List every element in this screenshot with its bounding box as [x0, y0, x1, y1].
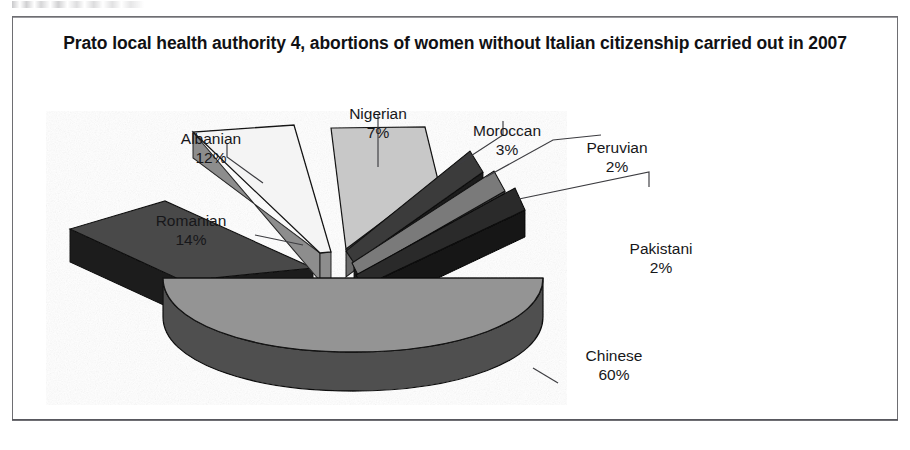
screenshot-page: Prato local health authority 4, abortion…	[0, 0, 910, 450]
scan-artifact-strip	[12, 1, 144, 8]
pie-label-romanian-name: Romanian	[156, 212, 227, 231]
pie-label-chinese: Chinese 60%	[586, 347, 643, 385]
leader-line-chinese	[533, 368, 558, 383]
pie-label-nigerian-name: Nigerian	[349, 105, 407, 124]
pie-label-pakistani: Pakistani 2%	[630, 240, 693, 278]
pie-label-nigerian-value: 7%	[349, 124, 407, 143]
pie-label-chinese-value: 60%	[586, 366, 643, 385]
pie-label-albanian-value: 12%	[181, 149, 241, 168]
pie-label-pakistani-value: 2%	[630, 259, 693, 278]
pie-label-romanian-value: 14%	[156, 231, 227, 250]
pie-label-nigerian: Nigerian 7%	[349, 105, 407, 143]
pie-chart-plot-area	[13, 17, 899, 421]
pie-label-moroccan-value: 3%	[473, 141, 541, 160]
pie-label-moroccan-name: Moroccan	[473, 122, 541, 141]
pie-slice-chinese[interactable]	[163, 278, 543, 391]
pie-3d-body	[70, 125, 543, 391]
pie-label-albanian: Albanian 12%	[181, 130, 241, 168]
pie-label-moroccan: Moroccan 3%	[473, 122, 541, 160]
pie-label-pakistani-name: Pakistani	[630, 240, 693, 259]
pie-label-peruvian-name: Peruvian	[586, 139, 647, 158]
pie-label-peruvian-value: 2%	[586, 158, 647, 177]
pie-label-albanian-name: Albanian	[181, 130, 241, 149]
pie-slice-albanian-side2	[320, 252, 331, 281]
chart-frame: Prato local health authority 4, abortion…	[12, 16, 898, 420]
pie-label-romanian: Romanian 14%	[156, 212, 227, 250]
pie-label-chinese-name: Chinese	[586, 347, 643, 366]
frame-bottom-edge	[12, 419, 898, 421]
pie-label-peruvian: Peruvian 2%	[586, 139, 647, 177]
